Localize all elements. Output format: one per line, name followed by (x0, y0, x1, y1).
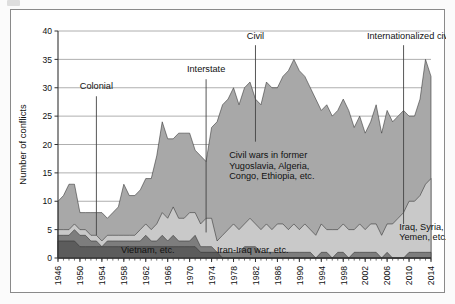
x-tick-label-2006: 2006 (382, 266, 392, 285)
scan-artifact-mark (7, 0, 20, 6)
annotation-civil-wars-line-2: Yugoslavia, Algeria, (229, 161, 309, 171)
annotation-vietnam-note: Vietnam, etc. (121, 245, 174, 255)
x-tick-label-1974: 1974 (207, 266, 217, 285)
y-tick-label-35: 35 (42, 55, 52, 65)
chart-figure: 0510152025303540Number of conflicts19461… (11, 10, 446, 294)
y-tick-label-10: 10 (42, 196, 52, 206)
x-tick-label-1966: 1966 (163, 266, 173, 285)
x-tick-label-1962: 1962 (141, 266, 151, 285)
x-tick-label-2010: 2010 (404, 266, 414, 285)
y-tick-label-15: 15 (42, 168, 52, 178)
annotation-label-civil: Civil (247, 31, 264, 41)
y-axis-title: Number of conflicts (17, 104, 28, 185)
x-tick-label-1950: 1950 (75, 266, 85, 285)
x-tick-label-2002: 2002 (360, 266, 370, 285)
x-tick-label-1958: 1958 (119, 266, 129, 285)
annotation-label-interstate: Interstate (187, 64, 225, 74)
annotation-civil-wars-line-3: Congo, Ethiopia, etc. (229, 171, 314, 181)
y-tick-label-0: 0 (47, 253, 52, 263)
y-tick-label-25: 25 (42, 111, 52, 121)
x-tick-label-1986: 1986 (273, 266, 283, 285)
x-tick-label-1954: 1954 (97, 266, 107, 285)
x-tick-label-2014: 2014 (426, 266, 436, 285)
x-tick-label-1982: 1982 (251, 266, 261, 285)
y-tick-label-40: 40 (42, 26, 52, 36)
x-tick-label-1978: 1978 (229, 266, 239, 285)
x-tick-label-1994: 1994 (317, 266, 327, 285)
annotation-label-colonial: Colonial (80, 81, 113, 91)
y-tick-label-5: 5 (47, 225, 52, 235)
figure-root: 0510152025303540Number of conflicts19461… (0, 0, 455, 304)
annotation-iraq-syria-line-1: Iraq, Syria, (399, 222, 443, 232)
x-tick-label-1970: 1970 (185, 266, 195, 285)
y-tick-label-20: 20 (42, 140, 52, 150)
y-tick-label-30: 30 (42, 83, 52, 93)
annotation-iran-iraq-note: Iran-Iraq war, etc. (217, 245, 289, 255)
stacked-area-chart: 0510152025303540Number of conflicts19461… (11, 10, 446, 294)
annotation-iraq-syria-line-2: Yemen, etc. (399, 232, 446, 242)
chart-frame: 0510152025303540Number of conflicts19461… (10, 9, 445, 293)
x-tick-label-1998: 1998 (339, 266, 349, 285)
x-tick-label-1946: 1946 (53, 266, 63, 285)
annotation-label-internationalized-civil: Internationalized civil (367, 31, 446, 41)
x-tick-label-1990: 1990 (295, 266, 305, 285)
annotation-civil-wars-line-1: Civil wars in former (229, 150, 307, 160)
